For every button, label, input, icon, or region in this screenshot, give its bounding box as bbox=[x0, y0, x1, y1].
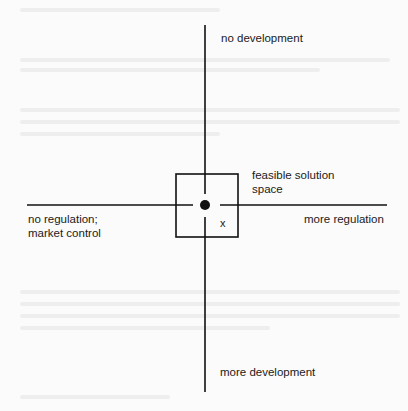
label-more-development: more development bbox=[220, 365, 315, 379]
label-feasible-solution-space: feasible solution space bbox=[252, 168, 334, 196]
center-point-dot bbox=[200, 200, 210, 210]
label-no-development: no development bbox=[221, 31, 303, 45]
label-more-regulation: more regulation bbox=[304, 212, 384, 226]
diagram: no development more development no regul… bbox=[0, 0, 408, 411]
label-no-regulation: no regulation; market control bbox=[28, 212, 101, 240]
axes-graphic bbox=[0, 0, 408, 411]
label-point-x: x bbox=[220, 216, 226, 230]
